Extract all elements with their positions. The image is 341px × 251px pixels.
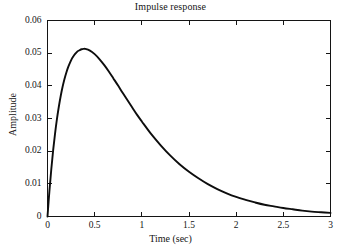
x-tick-label-1: 0.5 xyxy=(75,220,115,230)
x-tick-label-3: 1.5 xyxy=(169,220,209,230)
x-tick-label-5: 2.5 xyxy=(263,220,303,230)
impulse-response-figure: Impulse response 00.010.020.030.040.050.… xyxy=(0,0,341,251)
y-axis-label: Amplitude xyxy=(7,75,18,155)
x-tick-label-4: 2 xyxy=(216,220,256,230)
y-tick-label-5: 0.05 xyxy=(0,47,42,57)
x-tick-label-6: 3 xyxy=(311,220,341,230)
y-tick-label-6: 0.06 xyxy=(0,15,42,25)
x-tick-label-0: 0 xyxy=(28,220,68,230)
y-tick-label-1: 0.01 xyxy=(0,178,42,188)
plot-canvas xyxy=(0,0,341,251)
x-tick-label-2: 1 xyxy=(122,220,162,230)
x-axis-label: Time (sec) xyxy=(0,233,341,244)
impulse-response-curve xyxy=(48,49,331,217)
